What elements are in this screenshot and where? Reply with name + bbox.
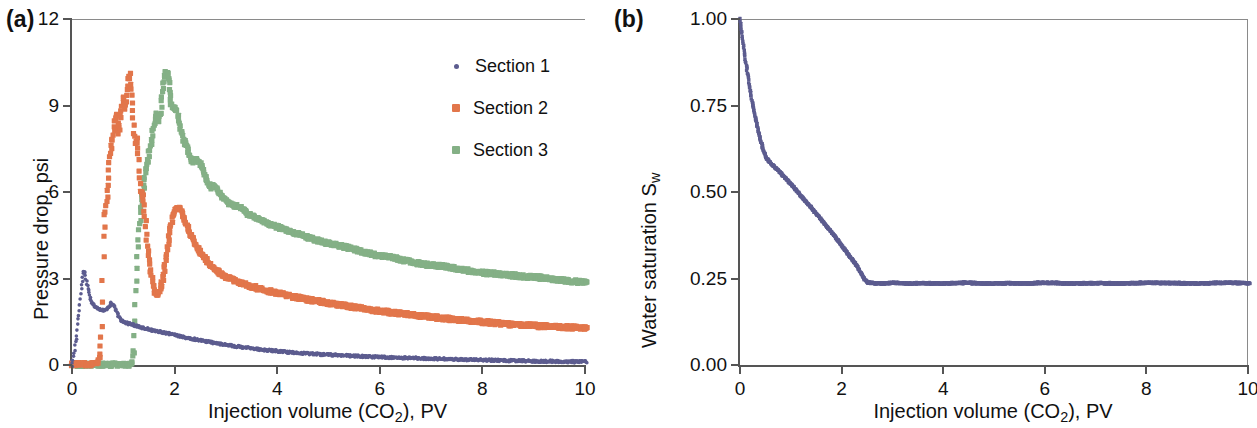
panel-b-y-axis-title-subscript: w — [647, 173, 663, 183]
x-axis-tick-label: 6 — [1040, 378, 1051, 400]
panel-a-y-axis-title: Pressure drop, psi — [30, 158, 53, 320]
legend-item-label: Section 1 — [475, 56, 550, 77]
y-axis-tick-label: 0.75 — [690, 95, 727, 117]
panel-b-y-axis-title: Water saturation Sw — [638, 173, 663, 348]
y-axis-tick — [63, 18, 72, 20]
y-axis-tick — [63, 105, 72, 107]
series-section-1 — [70, 270, 588, 368]
x-axis-tick — [1247, 365, 1249, 374]
y-axis-tick-label: 0.50 — [690, 181, 727, 203]
panel-a-tag: (a) — [6, 6, 35, 33]
x-axis-tick — [1044, 365, 1046, 374]
y-axis-tick — [731, 18, 740, 20]
panel-b-plot-area: 0.000.250.500.751.000246810 — [738, 19, 1248, 367]
series-water-saturation — [738, 17, 1251, 286]
x-axis-tick-label: 10 — [574, 378, 595, 400]
x-axis-tick-label: 8 — [1141, 378, 1152, 400]
x-axis-tick — [481, 365, 483, 374]
x-axis-tick-label: 6 — [375, 378, 386, 400]
panel-a-x-axis-title-main: Injection volume (CO — [208, 400, 395, 422]
x-axis-tick-label: 4 — [272, 378, 283, 400]
legend-marker-square-icon — [452, 146, 460, 154]
x-axis-tick — [841, 365, 843, 374]
x-axis-tick — [174, 365, 176, 374]
x-axis-tick-label: 4 — [938, 378, 949, 400]
panel-a-x-axis-title-tail: ), PV — [403, 400, 447, 422]
y-axis-tick — [63, 278, 72, 280]
panel-a-legend: Section 1Section 2Section 3 — [452, 45, 550, 171]
y-axis-tick — [731, 191, 740, 193]
panel-a-x-axis-title: Injection volume (CO2), PV — [70, 400, 585, 425]
panel-b-x-axis-title-subscript: 2 — [1060, 409, 1068, 425]
figure-root: (a) 0369120246810 Pressure drop, psi Inj… — [0, 0, 1257, 428]
x-axis-tick-label: 0 — [735, 378, 746, 400]
x-axis-tick-label: 0 — [67, 378, 78, 400]
y-axis-tick — [731, 105, 740, 107]
legend-item-section-2[interactable]: Section 2 — [452, 87, 550, 129]
y-axis-tick — [731, 278, 740, 280]
x-axis-tick — [71, 365, 73, 374]
panel-b-x-axis-title-tail: ), PV — [1068, 400, 1112, 422]
panel-b: (b) 0.000.250.500.751.000246810 Water sa… — [600, 0, 1257, 428]
panel-a-x-axis-title-subscript: 2 — [395, 409, 403, 425]
legend-item-label: Section 2 — [473, 98, 548, 119]
x-axis-tick — [1145, 365, 1147, 374]
x-axis-tick-label: 2 — [836, 378, 847, 400]
x-axis-tick — [379, 365, 381, 374]
y-axis-tick-label: 0.00 — [690, 354, 727, 376]
legend-item-section-3[interactable]: Section 3 — [452, 129, 550, 171]
x-axis-tick — [276, 365, 278, 374]
panel-b-x-axis-title-main: Injection volume (CO — [873, 400, 1060, 422]
legend-item-section-1[interactable]: Section 1 — [452, 45, 550, 87]
legend-marker-square-icon — [452, 104, 460, 112]
panel-b-y-axis-title-main: Water saturation S — [638, 183, 660, 348]
panel-a: (a) 0369120246810 Pressure drop, psi Inj… — [0, 0, 600, 428]
y-axis-tick — [63, 191, 72, 193]
y-axis-tick-label: 0.25 — [690, 268, 727, 290]
x-axis-tick-label: 8 — [477, 378, 488, 400]
x-axis-tick — [584, 365, 586, 374]
x-axis-tick-label: 10 — [1237, 378, 1257, 400]
x-axis-tick-label: 2 — [169, 378, 180, 400]
x-axis-tick — [942, 365, 944, 374]
legend-marker-dot-icon — [454, 64, 459, 69]
panel-b-x-axis-title: Injection volume (CO2), PV — [738, 400, 1248, 425]
panel-b-tag: (b) — [614, 6, 644, 33]
panel-b-series-layer — [740, 19, 1250, 367]
x-axis-tick — [739, 365, 741, 374]
y-axis-tick-label: 1.00 — [690, 8, 727, 30]
y-axis-tick-label: 12 — [38, 8, 59, 30]
legend-item-label: Section 3 — [473, 140, 548, 161]
y-axis-tick-label: 9 — [48, 95, 59, 117]
y-axis-tick-label: 0 — [48, 354, 59, 376]
